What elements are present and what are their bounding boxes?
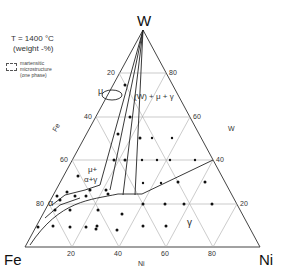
vertex-ni: Ni — [259, 251, 273, 268]
units-label: (weight -%) — [13, 44, 53, 53]
region-mu-alpha-gamma-1: μ+ — [88, 165, 97, 174]
axis-label-ni: Ni — [138, 260, 145, 267]
left-tick-20: 20 — [107, 69, 115, 76]
right-tick-40: 40 — [216, 156, 224, 163]
right-tick-60: 60 — [193, 113, 201, 120]
region-mu: μ — [98, 86, 103, 96]
region-alpha: α — [48, 198, 53, 208]
axis-label-w: W — [228, 125, 235, 132]
right-tick-20: 20 — [240, 200, 248, 207]
left-tick-40: 40 — [84, 113, 92, 120]
vertex-w: W — [137, 12, 151, 29]
right-tick-80: 80 — [169, 69, 177, 76]
region-w-mu-gamma: (W) + μ + γ — [134, 92, 174, 101]
region-mu-alpha-gamma-2: α+γ — [84, 175, 97, 184]
left-tick-80: 80 — [36, 200, 44, 207]
bottom-tick-80: 80 — [208, 250, 216, 257]
triangle-outline — [25, 30, 260, 247]
vertex-fe: Fe — [4, 251, 22, 268]
bottom-tick-60: 60 — [161, 250, 169, 257]
region-gamma: γ — [187, 217, 192, 228]
temperature-label: T = 1400 °C — [11, 34, 54, 43]
legend-text: martensitic microstructure (one phase) — [20, 60, 52, 78]
bottom-tick-40: 40 — [114, 250, 122, 257]
legend-swatch — [6, 63, 17, 71]
bottom-tick-20: 20 — [67, 250, 75, 257]
left-tick-60: 60 — [60, 156, 68, 163]
